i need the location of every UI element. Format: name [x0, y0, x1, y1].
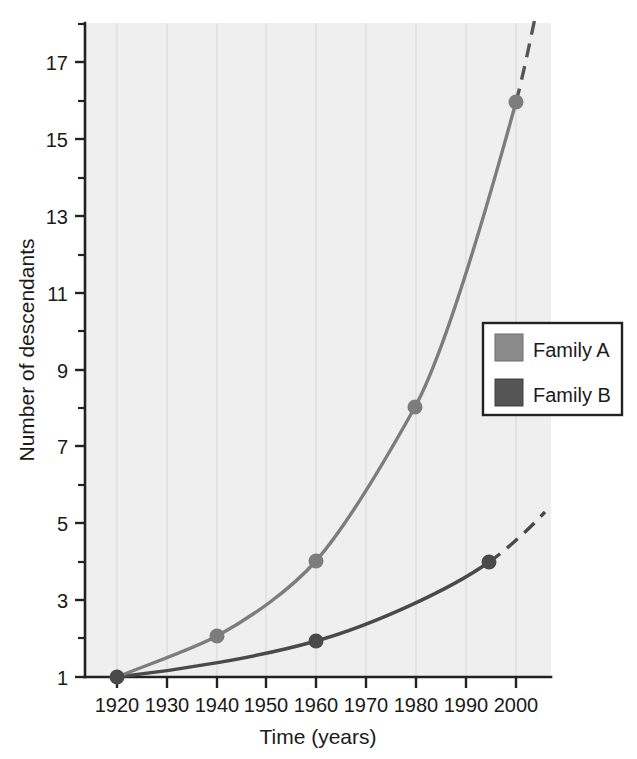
- x-tick-label: 1930: [145, 694, 190, 716]
- y-tick-label: 11: [47, 283, 68, 305]
- legend-label-family-a: Family A: [533, 339, 610, 361]
- x-axis-ticks: [117, 677, 516, 688]
- y-tick-label: 17: [46, 52, 68, 74]
- y-axis-title: Number of descendants: [15, 239, 38, 462]
- y-tick-label: 5: [57, 513, 68, 535]
- legend-swatch-family-a: [495, 334, 523, 361]
- x-tick-label: 1960: [294, 694, 339, 716]
- data-point: [309, 634, 324, 649]
- data-point: [110, 670, 125, 685]
- x-tick-label: 1990: [444, 694, 489, 716]
- x-tick-label: 1970: [344, 694, 389, 716]
- x-tick-label: 1980: [394, 694, 439, 716]
- x-axis-tick-labels: 1920 1930 1940 1950 1960 1970 1980 1990 …: [95, 694, 539, 716]
- data-point: [210, 629, 225, 644]
- y-tick-label: 9: [57, 360, 68, 382]
- x-tick-label: 2000: [494, 694, 539, 716]
- y-tick-label: 3: [57, 590, 68, 612]
- y-axis-major-ticks: [75, 62, 85, 677]
- data-point: [408, 400, 423, 415]
- x-axis-title: Time (years): [259, 725, 376, 748]
- y-tick-label: 7: [57, 436, 68, 458]
- y-tick-label: 13: [46, 206, 68, 228]
- data-point: [509, 95, 524, 110]
- y-axis-tick-labels: 1 3 5 7 9 11 13 15 17: [46, 52, 68, 689]
- y-tick-label: 15: [46, 129, 68, 151]
- chart-figure: 1 3 5 7 9 11 13 15 17 1920 1930 1940 195…: [0, 0, 637, 759]
- data-point: [482, 555, 497, 570]
- legend-swatch-family-b: [495, 379, 523, 406]
- data-point: [309, 554, 324, 569]
- x-tick-label: 1950: [244, 694, 289, 716]
- descendants-line-chart: 1 3 5 7 9 11 13 15 17 1920 1930 1940 195…: [0, 0, 637, 759]
- x-tick-label: 1940: [195, 694, 240, 716]
- chart-legend: Family A Family B: [483, 323, 622, 415]
- x-tick-label: 1920: [95, 694, 140, 716]
- legend-label-family-b: Family B: [533, 384, 611, 406]
- plot-background: [85, 23, 551, 677]
- y-tick-label: 1: [57, 667, 68, 689]
